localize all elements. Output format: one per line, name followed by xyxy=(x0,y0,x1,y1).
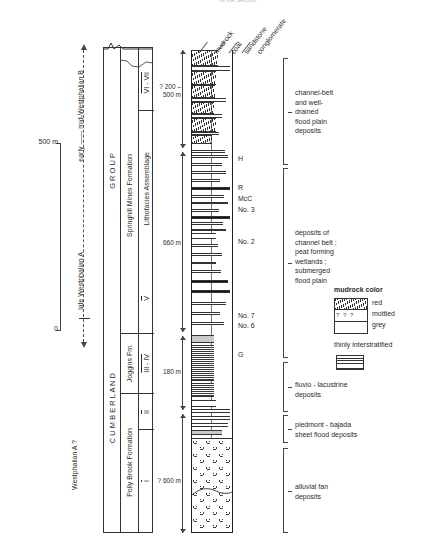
coal-seam-label-g: G xyxy=(238,351,243,358)
legend-label-mottled: mottled xyxy=(372,310,395,317)
bed xyxy=(192,270,221,273)
coal-seam-bed xyxy=(192,187,230,190)
coal-seam-bed xyxy=(192,229,226,231)
bed xyxy=(192,179,220,182)
legend-title: mudrock color xyxy=(334,286,383,293)
coal-seam-bed xyxy=(192,290,230,293)
time-label-upper: early —— mid-Westphalian B xyxy=(77,70,84,162)
bed xyxy=(192,400,216,407)
stratigraphy-table: G R O U P C U M B E R L A N D Springhill… xyxy=(103,47,153,533)
coal-seam-bed xyxy=(192,216,230,219)
thickness-bar-4 xyxy=(182,414,183,533)
coal-seam-label-h: H xyxy=(238,155,243,162)
thickness-arrow-up-icon xyxy=(180,50,186,54)
bed xyxy=(192,150,225,153)
bed xyxy=(192,423,228,427)
coal-seam-label-no2: No. 2 xyxy=(238,238,255,245)
bed xyxy=(192,102,214,114)
thickness-bar-2 xyxy=(182,152,183,332)
bed xyxy=(192,335,214,343)
coal-seam-label-r: R xyxy=(238,184,243,191)
group-label-upper: G R O U P xyxy=(104,56,120,286)
bed xyxy=(192,118,216,132)
scale-bar xyxy=(60,143,61,331)
bed xyxy=(192,302,226,305)
thickness-arrow-down-icon xyxy=(180,144,186,148)
thickness-arrow-down-icon xyxy=(180,529,186,533)
bed xyxy=(192,195,224,198)
interpretation-text-3: fluvio - lacustrine deposits xyxy=(295,380,381,399)
bed xyxy=(192,50,218,66)
bed xyxy=(192,155,228,158)
scale-bottom-label: 0 xyxy=(16,325,58,332)
coal-seam-bed xyxy=(192,280,228,283)
lithology-column xyxy=(191,50,233,533)
coal-seam-bed xyxy=(192,202,228,204)
legend-label-grey: grey xyxy=(372,321,386,328)
erosional-top-squiggle xyxy=(103,41,153,50)
assemblage-divider-1 xyxy=(138,110,154,111)
legend-swatch-red xyxy=(335,299,367,310)
assemblage-v: V xyxy=(138,264,154,333)
bed xyxy=(192,171,226,174)
legend-swatch-mottled: ? ? ? xyxy=(335,310,367,321)
bed xyxy=(192,345,214,381)
interpretation-bracket-5 xyxy=(283,448,288,533)
bed xyxy=(192,253,222,256)
bed xyxy=(192,244,218,247)
bed xyxy=(192,416,230,420)
thickness-bar-1 xyxy=(182,50,183,148)
coal-seam-label-no3: No. 3 xyxy=(238,206,255,213)
bed xyxy=(192,85,215,98)
coal-seam-label-mcc: McC xyxy=(238,195,252,202)
intra-formation-squiggle xyxy=(120,58,154,70)
interpretation-text-5: alluvial fan deposits xyxy=(295,482,371,501)
bed xyxy=(192,383,214,397)
legend-mudrock-swatch: ? ? ? xyxy=(334,298,368,334)
thickness-bar-3 xyxy=(182,336,183,410)
interpretation-bracket-4 xyxy=(283,415,288,443)
assemblage-ii: II xyxy=(138,394,154,429)
interpretation-bracket-3 xyxy=(283,362,288,412)
bed xyxy=(192,71,216,85)
thickness-arrow-up-icon xyxy=(180,336,186,340)
bed xyxy=(192,233,216,239)
formation-polly-brook: Polly Brook Formation xyxy=(120,394,138,531)
formation-joggins: Joggins Fm. xyxy=(120,334,138,393)
thickness-arrow-down-icon xyxy=(180,328,186,332)
thickness-label-3: 180 m xyxy=(151,368,181,375)
thickness-label-1: ? 200 – 500 m xyxy=(151,83,181,99)
bed xyxy=(192,163,222,166)
formation-springhill-mines: Springhill Mines Formation xyxy=(120,58,138,333)
bed xyxy=(192,135,212,144)
coal-seam-label-no7: No. 7 xyxy=(238,312,255,319)
time-axis-tick xyxy=(79,318,90,319)
legend-swatch-grey xyxy=(335,322,367,333)
time-label-bottom: Westphalian A ? xyxy=(71,440,78,490)
scale-top-label: 500 m xyxy=(16,138,58,145)
scour-surface xyxy=(192,486,232,498)
thickness-arrow-up-icon xyxy=(180,414,186,418)
bed xyxy=(192,312,220,315)
thickness-arrow-up-icon xyxy=(180,152,186,156)
column-bottom-edge xyxy=(192,532,232,533)
thickness-label-4: ? 600 m xyxy=(149,477,181,484)
interpretation-bracket-1 xyxy=(283,58,288,165)
coal-seam-label-no6: No. 6 xyxy=(238,322,255,329)
bed xyxy=(192,222,223,225)
assemblage-iii-iv: III - IV xyxy=(138,334,154,393)
bed xyxy=(192,209,219,212)
thickness-arrow-down-icon xyxy=(180,406,186,410)
bed xyxy=(192,409,230,413)
time-arrow-down-icon xyxy=(81,342,87,348)
time-arrow-up-icon xyxy=(81,44,87,50)
legend-label-red: red xyxy=(372,299,382,306)
thickness-label-2: 660 m xyxy=(151,239,181,246)
interpretation-text-4: piedmont - bajada sheet flood deposits xyxy=(295,420,387,439)
time-label-lower: late Westphalian A xyxy=(77,252,84,310)
bed xyxy=(192,322,224,325)
legend-thin-label: thinly interstratified xyxy=(334,341,392,348)
bed xyxy=(192,262,216,264)
group-label-lower: C U M B E R L A N D xyxy=(104,286,120,531)
legend-thin-swatch xyxy=(336,355,364,370)
